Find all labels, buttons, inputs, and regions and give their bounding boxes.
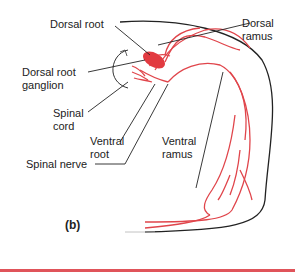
label-spinal-cord-line2: cord bbox=[53, 120, 84, 133]
label-dorsal-ramus: Dorsal ramus bbox=[242, 17, 274, 43]
label-ventral-root-line1: Ventral bbox=[90, 135, 124, 148]
label-dorsal-root-ganglion: Dorsal root ganglion bbox=[22, 66, 76, 92]
label-ventral-ramus: Ventral ramus bbox=[162, 135, 196, 161]
label-spinal-cord: Spinal cord bbox=[53, 107, 84, 133]
label-spinal-nerve: Spinal nerve bbox=[26, 158, 87, 171]
label-dorsal-ramus-line1: Dorsal bbox=[242, 17, 274, 30]
label-drg-line2: ganglion bbox=[22, 79, 76, 92]
label-spinal-cord-line1: Spinal bbox=[53, 107, 84, 120]
label-ventral-root-line2: root bbox=[90, 148, 124, 161]
label-ventral-root: Ventral root bbox=[90, 135, 124, 161]
label-ventral-ramus-line1: Ventral bbox=[162, 135, 196, 148]
label-dorsal-ramus-line2: ramus bbox=[242, 30, 274, 43]
panel-label: (b) bbox=[65, 218, 80, 232]
label-ventral-ramus-line2: ramus bbox=[162, 148, 196, 161]
label-dorsal-root: Dorsal root bbox=[50, 18, 104, 31]
spinal-cord-outline bbox=[113, 50, 128, 88]
label-drg-line1: Dorsal root bbox=[22, 66, 76, 79]
